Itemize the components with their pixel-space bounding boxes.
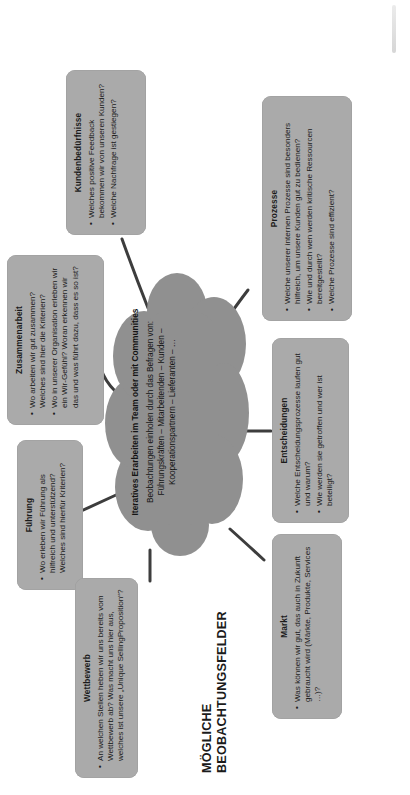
card-prozesse[interactable]: Prozesse Welche unserer internen Prozess… — [262, 96, 352, 321]
list-item: Wie werden sie getroffen und wer ist bet… — [315, 347, 336, 506]
list-item: Welche unserer internen Prozesse sind be… — [283, 105, 304, 304]
card-entscheidungen[interactable]: Entscheidungen Welche Entscheidungsproze… — [272, 338, 349, 523]
card-kundenbeduerfnisse-bullets: Welches positive Feedback bekommen wir v… — [87, 79, 120, 226]
card-kundenbeduerfnisse[interactable]: Kundenbedürfnisse Welches positive Feedb… — [66, 70, 146, 235]
card-prozesse-bullets: Welche unserer internen Prozesse sind be… — [283, 105, 338, 312]
list-item: An welchen Stellen heben wir uns bereits… — [96, 587, 127, 761]
card-wettbewerb-bullets: An welchen Stellen heben wir uns bereits… — [96, 587, 127, 769]
page-title-line-1: MÖGLICHE — [200, 611, 215, 773]
card-fuehrung-title: Führung — [24, 449, 35, 581]
card-wettbewerb[interactable]: Wettbewerb An welchen Stellen heben wir … — [75, 578, 138, 778]
card-markt-bullets: Was können wir gut, das auch in Zukunft … — [293, 543, 324, 710]
list-item: Wo in unserer Organisation erleben wir e… — [50, 264, 81, 408]
page-title-line-2: BEOBACHTUNGSFELDER — [215, 611, 230, 773]
central-cloud: Iteratives Erarbeiten im Team oder mit C… — [104, 269, 249, 559]
list-item: Wo erleben wir Führung als hilfreich und… — [38, 449, 69, 573]
card-zusammenarbeit-title: Zusammenarbeit — [14, 264, 25, 416]
card-fuehrung[interactable]: Führung Wo erleben wir Führung als hilfr… — [17, 440, 83, 590]
scan-artifact — [392, 5, 396, 53]
list-item: Welche Entscheidungsprozesse laufen gut … — [293, 347, 314, 506]
list-item: Wo arbeiten wir gut zusammen? Welches si… — [28, 264, 49, 408]
diagram-canvas: MÖGLICHE BEOBACHTUNGSFELDER Iter — [0, 0, 410, 795]
card-markt-title: Markt — [279, 543, 290, 710]
list-item: Wie und durch wen werden kritische Resso… — [305, 105, 326, 304]
card-entscheidungen-title: Entscheidungen — [279, 347, 290, 514]
page-title: MÖGLICHE BEOBACHTUNGSFELDER — [200, 611, 231, 773]
list-item: Welche Prozesse sind effizient? — [327, 105, 337, 304]
card-zusammenarbeit[interactable]: Zusammenarbeit Wo arbeiten wir gut zusam… — [7, 255, 104, 425]
cloud-text: Iteratives Erarbeiten im Team oder mit C… — [130, 303, 178, 521]
diagram-stage: MÖGLICHE BEOBACHTUNGSFELDER Iter — [0, 0, 410, 795]
card-zusammenarbeit-bullets: Wo arbeiten wir gut zusammen? Welches si… — [28, 264, 81, 416]
card-prozesse-title: Prozesse — [269, 105, 280, 312]
list-item: Was können wir gut, das auch in Zukunft … — [293, 543, 324, 702]
card-entscheidungen-bullets: Welche Entscheidungsprozesse laufen gut … — [293, 347, 336, 514]
list-item: Welche Nachfrage ist gestiegen? — [109, 79, 119, 218]
cloud-body: Beobachtungen einholen durch das Befrage… — [146, 303, 178, 521]
list-item: Welches positive Feedback bekommen wir v… — [87, 79, 108, 218]
card-fuehrung-bullets: Wo erleben wir Führung als hilfreich und… — [38, 449, 69, 581]
card-markt[interactable]: Markt Was können wir gut, das auch in Zu… — [272, 534, 342, 719]
cloud-title: Iteratives Erarbeiten im Team oder mit C… — [130, 303, 141, 521]
card-wettbewerb-title: Wettbewerb — [82, 587, 93, 769]
card-kundenbeduerfnisse-title: Kundenbedürfnisse — [73, 79, 84, 226]
